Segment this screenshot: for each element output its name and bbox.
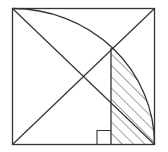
hatched-region (100, 30, 160, 150)
right-angle-marker (97, 131, 111, 145)
geometry-diagram (0, 0, 168, 152)
